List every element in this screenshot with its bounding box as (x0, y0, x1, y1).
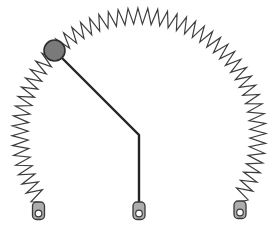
pendulum-ball (44, 40, 65, 61)
physics-diagram (0, 0, 274, 226)
anchor-center (133, 202, 145, 220)
anchor-right (234, 201, 246, 219)
anchor-right-hole (237, 209, 244, 216)
anchor-left (33, 202, 45, 220)
diagram-canvas (0, 0, 274, 226)
pendulum-rod (55, 51, 140, 204)
anchor-center-hole (136, 210, 143, 217)
anchor-left-hole (35, 210, 42, 217)
